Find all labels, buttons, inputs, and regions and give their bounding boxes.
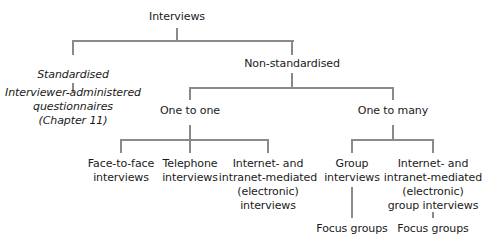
node-label-line: Interviewer-administered	[5, 86, 141, 100]
node-label-line: interviews	[324, 171, 380, 185]
connector-to-one-to-many	[392, 87, 394, 100]
connector-group-to-focus-groups	[351, 187, 353, 218]
node-focus-groups-right: Focus groups	[397, 222, 468, 236]
node-label-line: group interviews	[384, 199, 482, 213]
node-label-line: (Chapter 11)	[5, 114, 141, 128]
connector-to-face-to-face	[120, 139, 122, 153]
node-label-line: intranet-mediated	[384, 171, 482, 185]
node-label-line: Face-to-face	[88, 157, 154, 171]
node-label-line: (electronic)	[219, 185, 317, 199]
node-face-to-face-interviews: Face-to-face interviews	[88, 157, 154, 185]
node-one-to-one: One to one	[160, 104, 220, 118]
node-label: Non-standardised	[244, 57, 340, 71]
connector-to-internet-interviews	[267, 139, 269, 153]
node-internet-mediated-group-interviews: Internet- and intranet-mediated (electro…	[384, 157, 482, 213]
node-interviews: Interviews	[149, 10, 205, 24]
node-label: One to many	[358, 104, 428, 118]
node-group-interviews: Group interviews	[324, 157, 380, 185]
node-label-line: questionnaires	[5, 100, 141, 114]
connector-to-non-standardised	[291, 40, 293, 55]
node-label-line: Internet- and	[219, 157, 317, 171]
node-label-line: interviews	[219, 199, 317, 213]
node-label: Standardised	[37, 68, 109, 82]
node-label-line: Internet- and	[384, 157, 482, 171]
node-internet-mediated-interviews: Internet- and intranet-mediated (electro…	[219, 157, 317, 213]
node-label: Interviews	[149, 10, 205, 24]
node-label-line: intranet-mediated	[219, 171, 317, 185]
connector-to-standardised	[72, 40, 74, 55]
node-interviewer-administered-questionnaires: Interviewer-administered questionnaires …	[5, 86, 141, 128]
connector-to-one-to-one	[189, 87, 191, 100]
node-standardised: Standardised	[37, 68, 109, 82]
connector-one-to-many-bar	[351, 139, 434, 141]
connector-non-standardised-down	[291, 73, 293, 88]
connector-level1-bar	[72, 40, 294, 42]
node-label: One to one	[160, 104, 220, 118]
node-label-line: (electronic)	[384, 185, 482, 199]
node-label-line: interviews	[162, 171, 218, 185]
connector-one-to-many-down	[392, 125, 394, 140]
node-label: Focus groups	[316, 222, 387, 236]
node-non-standardised: Non-standardised	[244, 57, 340, 71]
connector-level2-bar	[189, 87, 394, 89]
node-label-line: Telephone	[162, 157, 218, 171]
node-telephone-interviews: Telephone interviews	[162, 157, 218, 185]
connector-to-internet-group-interviews	[432, 139, 434, 153]
node-label-line: interviews	[88, 171, 154, 185]
connector-one-to-one-bar	[120, 139, 269, 141]
node-label-line: Group	[324, 157, 380, 171]
node-label: Focus groups	[397, 222, 468, 236]
node-one-to-many: One to many	[358, 104, 428, 118]
node-focus-groups-left: Focus groups	[316, 222, 387, 236]
connector-to-group-interviews	[351, 139, 353, 153]
